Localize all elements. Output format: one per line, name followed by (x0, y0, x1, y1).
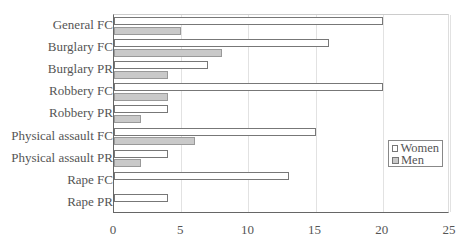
bar-women (114, 150, 168, 158)
category-label: Physical assault PR (11, 151, 113, 165)
bar-men (114, 71, 168, 79)
bar-men (114, 159, 141, 167)
category-label: General FC (53, 18, 113, 32)
x-tick-label: 25 (443, 222, 456, 238)
category-label: Robbery PR (49, 106, 113, 120)
bar-women (114, 83, 383, 91)
category-label: Physical assault FC (11, 129, 113, 143)
bar-men (114, 27, 181, 35)
bar-men (114, 115, 141, 123)
category-label: Burglary FC (48, 40, 113, 54)
gridline (450, 15, 451, 212)
category-label: Rape FC (67, 173, 113, 187)
bar-women (114, 194, 168, 202)
horizontal-bar-chart: General FCBurglary FCBurglary PRRobbery … (0, 0, 464, 245)
bar-men (114, 93, 168, 101)
gridline (383, 15, 384, 212)
x-tick-label: 15 (308, 222, 321, 238)
legend-item-men: Men (392, 154, 439, 166)
category-label: Robbery FC (49, 84, 113, 98)
bar-women (114, 105, 168, 113)
x-tick-label: 20 (375, 222, 388, 238)
bar-women (114, 172, 289, 180)
x-tick-label: 0 (110, 222, 117, 238)
category-label: Burglary PR (48, 62, 113, 76)
x-tick-label: 10 (241, 222, 254, 238)
bar-men (114, 49, 222, 57)
legend: Women Men (388, 140, 443, 167)
bar-women (114, 39, 329, 47)
legend-label-men: Men (401, 154, 424, 166)
bar-men (114, 137, 195, 145)
category-label: Rape PR (67, 195, 113, 209)
men-swatch-icon (392, 157, 399, 164)
bar-women (114, 128, 316, 136)
bar-women (114, 17, 383, 25)
women-swatch-icon (392, 145, 398, 152)
bar-women (114, 61, 208, 69)
x-tick-label: 5 (177, 222, 184, 238)
plot-area (113, 14, 449, 213)
